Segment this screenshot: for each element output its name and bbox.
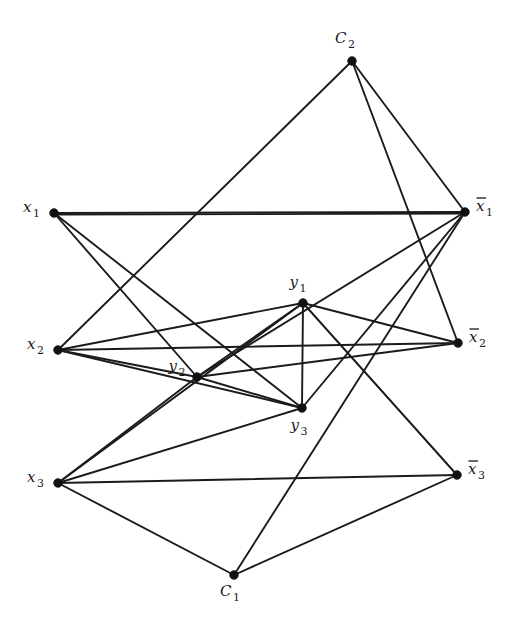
edge-layer [54,61,465,575]
graph-edge-nx3-y1 [303,303,457,475]
graph-vertex-nx3[interactable] [453,471,461,479]
graph-edge-C2-nx1 [352,61,465,212]
label-letter: x [27,335,36,353]
vertex-label-x3: x3 [27,468,44,490]
vertex-label-x1: x1 [23,198,40,220]
vertex-label-nx2: x2 [469,328,486,350]
vertex-label-text-x1: x1 [23,198,40,220]
graph-edge-C1-nx1 [234,212,465,575]
label-subscript: 2 [348,38,355,51]
label-subscript: 1 [486,206,493,219]
graph-edge-y2-y3 [197,377,302,408]
graph-edge-C1-nx3 [234,475,457,575]
graph-edge-nx2-y1 [303,303,458,343]
graph-vertex-x1[interactable] [50,209,58,217]
vertex-label-text-C1: C1 [220,582,240,604]
label-subscript: 1 [33,207,40,220]
label-subscript: 2 [178,366,185,379]
vertex-label-nx1: x1 [476,197,493,219]
graph-vertex-y1[interactable] [299,299,307,307]
graph-vertex-C2[interactable] [348,57,356,65]
vertex-label-y1: y1 [289,273,307,295]
vertex-label-text-nx1: x1 [476,197,493,219]
vertex-label-text-nx2: x2 [469,328,486,350]
vertex-label-y3: y3 [290,416,308,438]
label-subscript: 2 [37,344,44,357]
figure-canvas: C2x1x1y1x2x2y2y3x3x3C1 [0,0,513,630]
label-letter: x [476,197,485,215]
graph-edge-C1-x3 [58,483,234,575]
graph-edge-nx1-y2 [197,212,465,377]
graph-vertex-y2[interactable] [193,373,201,381]
graph-edge-x2-nx2 [58,343,458,350]
label-subscript: 1 [233,591,240,604]
vertex-label-text-y3: y3 [290,416,308,438]
vertex-label-C1: C1 [220,582,240,604]
vertex-label-text-x2: x2 [27,335,44,357]
vertex-label-C2: C2 [335,29,355,51]
graph-edge-x2-y1 [58,303,303,350]
vertex-label-text-y1: y1 [289,273,307,295]
vertex-label-text-C2: C2 [335,29,355,51]
vertex-label-text-x3: x3 [27,468,44,490]
vertex-layer [50,57,469,579]
graph-edge-C2-x2 [58,61,352,350]
graph-diagram: C2x1x1y1x2x2y2y3x3x3C1 [0,0,513,630]
graph-edge-y1-y3 [302,303,303,408]
label-letter: C [335,29,347,47]
label-letter: x [27,468,36,486]
label-letter: y [290,416,300,434]
vertex-label-text-nx3: x3 [468,460,485,482]
label-letter: y [289,273,299,291]
label-subscript: 1 [299,282,306,295]
graph-vertex-x2[interactable] [54,346,62,354]
graph-vertex-nx2[interactable] [454,339,462,347]
graph-vertex-nx1[interactable] [461,208,469,216]
label-letter: C [220,582,232,600]
graph-edge-x1-nx1 [54,214,465,215]
label-subscript: 2 [479,337,486,350]
graph-edge-nx2-y2 [197,343,458,377]
graph-vertex-C1[interactable] [230,571,238,579]
graph-vertex-y3[interactable] [298,404,306,412]
graph-edge-x3-y2 [58,377,197,483]
graph-edge-x3-nx3 [58,475,457,483]
vertex-label-x2: x2 [27,335,44,357]
label-letter: y [168,357,178,375]
graph-edge-x1-y2 [54,213,197,377]
graph-vertex-x3[interactable] [54,479,62,487]
graph-edge-C2-nx2 [352,61,458,343]
graph-edge-x3-y3 [58,408,302,483]
label-letter: x [468,460,477,478]
vertex-label-nx3: x3 [468,460,485,482]
label-letter: x [469,328,478,346]
label-letter: x [23,198,32,216]
label-subscript: 3 [37,477,44,490]
label-subscript: 3 [300,425,307,438]
label-subscript: 3 [478,469,485,482]
